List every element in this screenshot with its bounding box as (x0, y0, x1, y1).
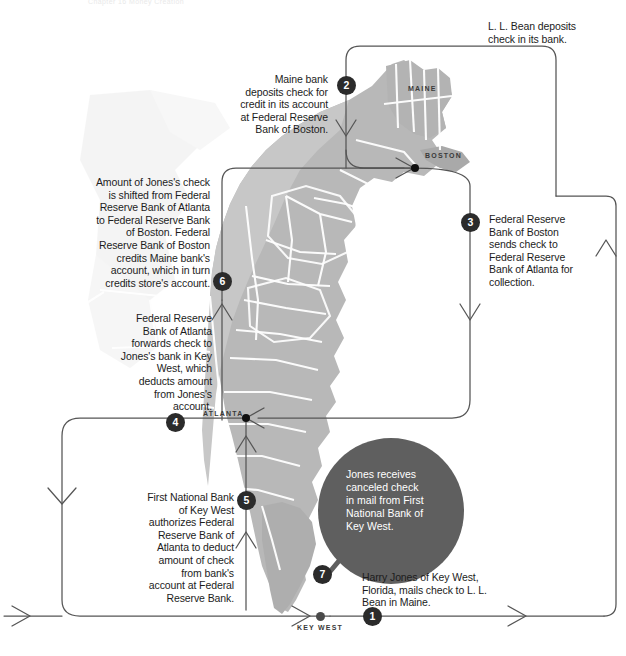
flow-3 (258, 168, 470, 418)
step-marker-3[interactable]: 3 (461, 213, 480, 232)
city-dot-boston (411, 164, 419, 172)
step-1-caption: Harry Jones of Key West, Florida, mails … (362, 571, 512, 609)
step-4-caption: Federal Reserve Bank of Atlanta forwards… (108, 312, 212, 413)
flow-6-top (222, 168, 414, 300)
map-label-maine: MAINE (408, 85, 437, 92)
step-2-caption: Maine bank deposits check for credit in … (196, 73, 328, 136)
figure-canvas: Jones receives canceled check in mail fr… (0, 0, 626, 656)
step-3-caption: Federal Reserve Bank of Boston sends che… (489, 213, 617, 289)
map-label-key-west: KEY WEST (297, 624, 343, 631)
flow-top-right (346, 46, 556, 196)
callout-bubble-text: Jones receives canceled check in mail fr… (346, 468, 450, 533)
callout-bubble: Jones receives canceled check in mail fr… (318, 438, 464, 584)
step-marker-6[interactable]: 6 (213, 272, 232, 291)
step-marker-7[interactable]: 7 (313, 565, 332, 584)
city-dot-key-west (316, 612, 325, 621)
step-marker-4[interactable]: 4 (166, 413, 185, 432)
step-marker-5[interactable]: 5 (237, 491, 256, 510)
map-label-boston: BOSTON (425, 152, 462, 159)
step-6-caption: Amount of Jones's check is shifted from … (88, 176, 210, 289)
step-marker-1[interactable]: 1 (363, 607, 382, 626)
step-marker-2[interactable]: 2 (337, 76, 356, 95)
step-5-caption: First National Bank of Key West authoriz… (130, 491, 234, 604)
page-header-crumb: Chapter 16 Money Creation (88, 0, 184, 5)
flow-2-elbow (346, 150, 404, 168)
step-7-caption: L. L. Bean deposits check in its bank. (488, 20, 618, 45)
